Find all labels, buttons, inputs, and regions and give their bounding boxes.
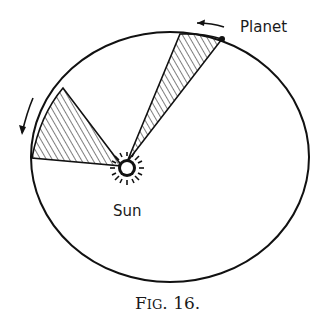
figure-caption: FIG. 16. (135, 293, 200, 313)
kepler-orbit-diagram: Planet Sun FIG. 16. (0, 0, 324, 318)
sector-aphelion (127, 34, 222, 162)
planet-dot (219, 36, 225, 42)
planet-motion-arrow-icon (197, 20, 224, 28)
sun-icon (110, 152, 144, 185)
orbit-direction-arrow-icon (19, 98, 33, 135)
sun-label: Sun (113, 202, 142, 220)
planet-label: Planet (240, 18, 287, 36)
